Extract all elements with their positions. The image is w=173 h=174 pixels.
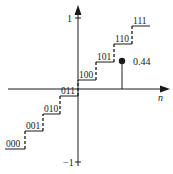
level-000: 000 bbox=[5, 131, 25, 149]
sample-dot-icon bbox=[119, 58, 125, 64]
level-code-label: 011 bbox=[61, 86, 75, 96]
level-code-label: 100 bbox=[79, 70, 94, 80]
y-top-label: 1 bbox=[67, 13, 72, 24]
quantizer-diagram: n 1 −1 000001010011100101110111 0.44 bbox=[0, 0, 173, 174]
level-code-label: 010 bbox=[44, 104, 59, 114]
x-axis-label: n bbox=[158, 92, 163, 103]
level-code-label: 001 bbox=[26, 121, 41, 131]
level-101: 101 bbox=[96, 44, 114, 62]
sample-value-label: 0.44 bbox=[133, 56, 151, 67]
level-011: 011 bbox=[60, 80, 78, 96]
level-100: 100 bbox=[78, 62, 96, 80]
y-bottom-label: −1 bbox=[63, 157, 74, 168]
x-axis: n bbox=[8, 86, 170, 104]
level-111: 111 bbox=[132, 16, 150, 26]
level-010: 010 bbox=[43, 96, 60, 114]
level-code-label: 110 bbox=[115, 34, 129, 44]
level-110: 110 bbox=[114, 26, 132, 44]
level-001: 001 bbox=[25, 114, 43, 131]
level-code-label: 111 bbox=[133, 16, 147, 26]
level-code-label: 000 bbox=[6, 139, 21, 149]
y-axis-arrow-icon bbox=[75, 5, 82, 15]
level-code-label: 101 bbox=[97, 52, 112, 62]
sample-stem: 0.44 bbox=[119, 56, 151, 90]
